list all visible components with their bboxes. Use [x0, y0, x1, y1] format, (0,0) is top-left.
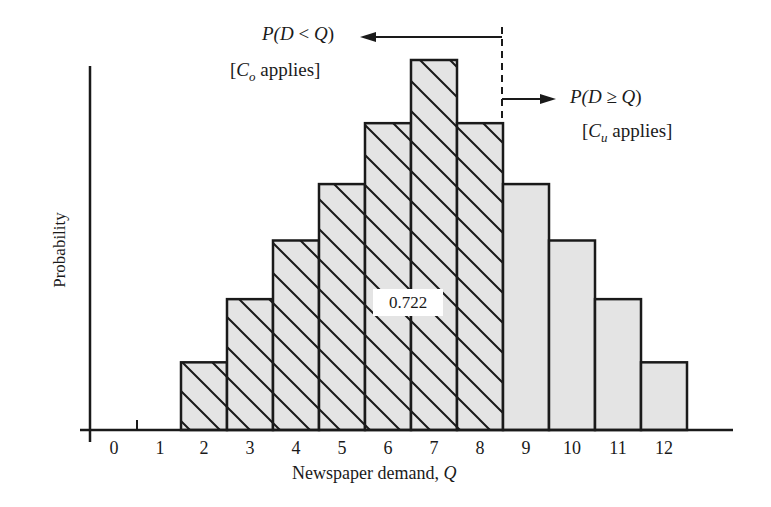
- bar-10: [549, 240, 595, 430]
- x-tick-label-3: 3: [246, 438, 255, 458]
- x-axis-label-text: Newspaper demand,: [292, 463, 443, 483]
- cumulative-probability-label: 0.722: [373, 289, 443, 316]
- x-tick-label-7: 7: [430, 438, 439, 458]
- bar-6: [365, 123, 411, 430]
- x-tick-label-5: 5: [338, 438, 347, 458]
- bar-2: [181, 362, 227, 430]
- x-tick-label-9: 9: [522, 438, 531, 458]
- bars-group: [181, 60, 687, 430]
- x-tick-label-8: 8: [476, 438, 485, 458]
- x-tick-label-0: 0: [110, 438, 119, 458]
- bar-8: [457, 123, 503, 430]
- close-paren: ): [328, 23, 334, 44]
- bar-3: [227, 299, 273, 430]
- op-symbol: <: [294, 23, 314, 44]
- annotation-p-d-geq-q: P(D ≥ Q): [570, 86, 642, 108]
- annotation-cu-applies: [Cu applies]: [582, 120, 672, 146]
- annotation-p-d-less-q: P(D < Q): [262, 23, 334, 45]
- p-symbol: P(: [570, 86, 588, 107]
- right-arrow-head: [540, 94, 556, 104]
- close-paren: ): [635, 86, 641, 107]
- q-symbol: Q: [622, 86, 636, 107]
- x-tick-label-10: 10: [563, 438, 581, 458]
- bar-7: [411, 60, 457, 430]
- x-tick-label-2: 2: [200, 438, 209, 458]
- bar-12: [641, 362, 687, 430]
- x-tick-labels: 0123456789101112: [110, 438, 674, 458]
- left-arrow-head: [360, 32, 376, 42]
- d-symbol: D: [588, 86, 602, 107]
- op-symbol: ≥: [602, 86, 622, 107]
- applies-text: applies]: [608, 120, 673, 141]
- x-tick-label-1: 1: [156, 438, 165, 458]
- x-tick-label-12: 12: [655, 438, 673, 458]
- x-axis-label: Newspaper demand, Q: [292, 463, 456, 484]
- d-symbol: D: [280, 23, 294, 44]
- q-symbol: Q: [314, 23, 328, 44]
- y-axis-label: Probability: [50, 212, 70, 288]
- applies-text: applies]: [256, 59, 321, 80]
- annotation-co-applies: [Co applies]: [230, 59, 320, 85]
- x-tick-label-11: 11: [609, 438, 626, 458]
- probability-histogram: 0123456789101112: [0, 0, 771, 507]
- c-symbol: C: [236, 59, 249, 80]
- c-symbol: C: [588, 120, 601, 141]
- p-symbol: P(: [262, 23, 280, 44]
- bar-4: [273, 240, 319, 430]
- x-tick-label-6: 6: [384, 438, 393, 458]
- x-axis-label-var: Q: [443, 463, 456, 483]
- bar-9: [503, 184, 549, 430]
- bar-11: [595, 299, 641, 430]
- bar-5: [319, 184, 365, 430]
- x-tick-label-4: 4: [292, 438, 301, 458]
